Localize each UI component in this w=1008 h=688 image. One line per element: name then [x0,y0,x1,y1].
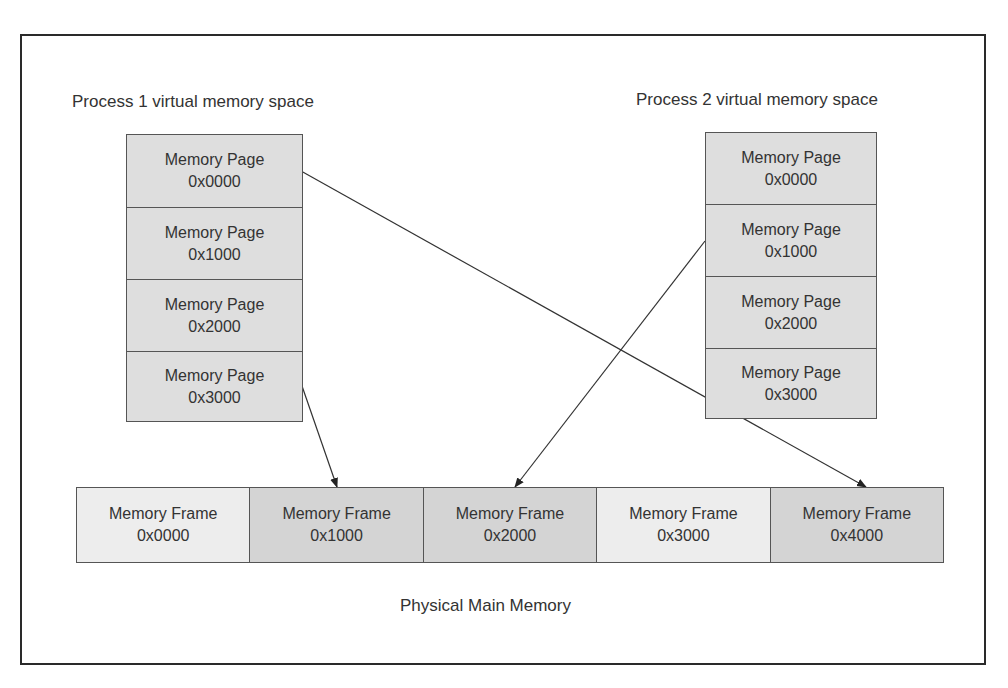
process2-title: Process 2 virtual memory space [636,90,878,110]
frame-label: Memory Frame [629,503,737,525]
page-address: 0x1000 [765,241,818,263]
page-address: 0x0000 [188,171,241,193]
page-address: 0x2000 [188,316,241,338]
page-label: Memory Page [165,222,265,244]
page-address: 0x2000 [765,313,818,335]
frame-0x4000: Memory Frame 0x4000 [770,488,943,562]
process2-page-0x2000: Memory Page 0x2000 [706,276,876,348]
page-label: Memory Page [741,147,841,169]
process1-title: Process 1 virtual memory space [72,92,314,112]
process1-page-0x1000: Memory Page 0x1000 [127,207,302,279]
frame-label: Memory Frame [282,503,390,525]
process1-page-0x3000: Memory Page 0x3000 [127,351,302,421]
page-label: Memory Page [741,362,841,384]
process2-page-0x1000: Memory Page 0x1000 [706,204,876,276]
page-address: 0x1000 [188,244,241,266]
page-label: Memory Page [165,294,265,316]
physical-memory-frames: Memory Frame 0x0000 Memory Frame 0x1000 … [76,487,944,563]
page-address: 0x0000 [765,169,818,191]
page-address: 0x3000 [188,387,241,409]
frame-label: Memory Frame [456,503,564,525]
process2-page-0x0000: Memory Page 0x0000 [706,133,876,204]
process2-page-0x3000: Memory Page 0x3000 [706,348,876,418]
frame-0x2000: Memory Frame 0x2000 [423,488,596,562]
frame-address: 0x2000 [484,525,537,547]
page-label: Memory Page [165,149,265,171]
process2-page-stack: Memory Page 0x0000 Memory Page 0x1000 Me… [705,132,877,419]
frame-address: 0x0000 [137,525,190,547]
frame-address: 0x3000 [657,525,710,547]
frame-address: 0x4000 [831,525,884,547]
process1-page-0x0000: Memory Page 0x0000 [127,135,302,207]
frame-0x3000: Memory Frame 0x3000 [596,488,769,562]
frame-label: Memory Frame [803,503,911,525]
page-label: Memory Page [165,365,265,387]
frame-0x0000: Memory Frame 0x0000 [77,488,249,562]
frame-0x1000: Memory Frame 0x1000 [249,488,422,562]
process1-page-stack: Memory Page 0x0000 Memory Page 0x1000 Me… [126,134,303,422]
page-label: Memory Page [741,291,841,313]
page-address: 0x3000 [765,384,818,406]
physical-memory-title: Physical Main Memory [400,596,571,616]
page-label: Memory Page [741,219,841,241]
frame-label: Memory Frame [109,503,217,525]
frame-address: 0x1000 [310,525,363,547]
process1-page-0x2000: Memory Page 0x2000 [127,279,302,351]
